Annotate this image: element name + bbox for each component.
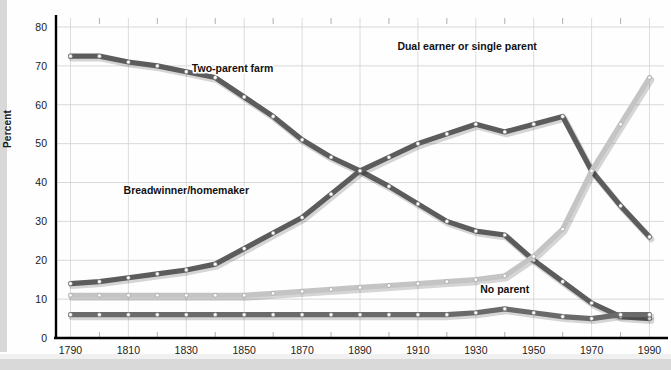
data-point-marker (503, 307, 507, 311)
data-point-marker (358, 169, 362, 173)
data-point-marker (329, 192, 333, 196)
chart-container: Percent 01020304050607080179018101830185… (0, 0, 671, 370)
data-point-marker (127, 276, 131, 280)
data-point-marker (416, 142, 420, 146)
data-point-marker (184, 70, 188, 74)
data-point-marker (648, 313, 652, 317)
data-point-marker (503, 233, 507, 237)
data-point-marker (387, 155, 391, 159)
y-tick-label: 60 (35, 99, 47, 111)
y-tick-label: 20 (35, 254, 47, 266)
data-point-marker (387, 313, 391, 317)
data-point-marker (590, 301, 594, 305)
data-point-marker (127, 293, 131, 297)
x-tick-label: 1850 (233, 344, 257, 356)
label-dual-earner: Dual earner or single parent (397, 40, 537, 52)
data-point-marker (532, 122, 536, 126)
x-tick-label: 1990 (638, 344, 662, 356)
data-point-marker (329, 313, 333, 317)
data-point-marker (98, 54, 102, 58)
x-tick-label: 1910 (406, 344, 430, 356)
data-point-marker (619, 313, 623, 317)
data-point-marker (213, 76, 217, 80)
x-tick-label: 1950 (522, 344, 546, 356)
data-point-marker (416, 282, 420, 286)
data-point-marker (532, 311, 536, 315)
data-point-marker (69, 293, 73, 297)
data-point-marker (184, 313, 188, 317)
x-tick-label: 1810 (117, 344, 141, 356)
x-tick-label: 1930 (464, 344, 488, 356)
data-point-marker (184, 293, 188, 297)
data-point-marker (127, 60, 131, 64)
data-point-marker (503, 274, 507, 278)
y-tick-label: 70 (35, 60, 47, 72)
data-point-marker (590, 169, 594, 173)
data-point-marker (213, 262, 217, 266)
data-point-marker (69, 54, 73, 58)
data-point-marker (155, 293, 159, 297)
data-point-marker (619, 122, 623, 126)
data-point-marker (445, 132, 449, 136)
data-point-marker (445, 280, 449, 284)
data-point-marker (561, 115, 565, 119)
data-point-marker (127, 313, 131, 317)
data-point-marker (358, 286, 362, 290)
data-point-marker (300, 290, 304, 294)
data-point-marker (213, 313, 217, 317)
data-point-marker (387, 185, 391, 189)
data-point-marker (416, 202, 420, 206)
y-tick-label: 30 (35, 215, 47, 227)
data-point-marker (184, 268, 188, 272)
data-point-marker (474, 278, 478, 282)
data-point-marker (561, 315, 565, 319)
data-point-marker (445, 220, 449, 224)
data-point-marker (590, 317, 594, 321)
data-point-marker (561, 227, 565, 231)
x-tick-label: 1890 (348, 344, 372, 356)
data-point-marker (503, 130, 507, 134)
data-point-marker (329, 155, 333, 159)
data-point-marker (271, 115, 275, 119)
data-point-marker (648, 235, 652, 239)
data-point-marker (561, 280, 565, 284)
data-point-marker (445, 313, 449, 317)
data-point-marker (242, 293, 246, 297)
label-two-parent-farm: Two-parent farm (192, 62, 273, 74)
data-point-marker (300, 313, 304, 317)
y-tick-label: 10 (35, 293, 47, 305)
y-tick-label: 50 (35, 137, 47, 149)
data-point-marker (155, 64, 159, 68)
data-point-marker (619, 204, 623, 208)
data-point-marker (155, 313, 159, 317)
data-point-marker (416, 313, 420, 317)
x-tick-label: 1870 (290, 344, 314, 356)
data-point-marker (242, 247, 246, 251)
x-tick-label: 1790 (59, 344, 83, 356)
line-chart-plot: 0102030405060708017901810183018501870189… (0, 0, 671, 370)
y-tick-label: 80 (35, 21, 47, 33)
data-point-marker (387, 284, 391, 288)
data-point-marker (242, 95, 246, 99)
y-tick-label: 40 (35, 176, 47, 188)
data-point-marker (300, 138, 304, 142)
data-point-marker (69, 282, 73, 286)
data-point-marker (155, 272, 159, 276)
x-tick-label: 1830 (175, 344, 199, 356)
data-point-marker (98, 293, 102, 297)
data-point-marker (98, 313, 102, 317)
data-point-marker (474, 229, 478, 233)
data-point-marker (98, 280, 102, 284)
data-point-marker (242, 313, 246, 317)
label-breadwinner-homemaker: Breadwinner/homemaker (124, 184, 249, 196)
series-annotations-layer: Two-parent farmTwo-parent farmBreadwinne… (124, 40, 538, 295)
data-point-marker (329, 288, 333, 292)
data-point-marker (474, 122, 478, 126)
data-point-marker (69, 313, 73, 317)
data-point-marker (358, 313, 362, 317)
data-point-marker (271, 291, 275, 295)
data-point-marker (648, 76, 652, 80)
y-tick-label: 0 (41, 332, 47, 344)
data-point-marker (271, 313, 275, 317)
data-point-marker (532, 255, 536, 259)
